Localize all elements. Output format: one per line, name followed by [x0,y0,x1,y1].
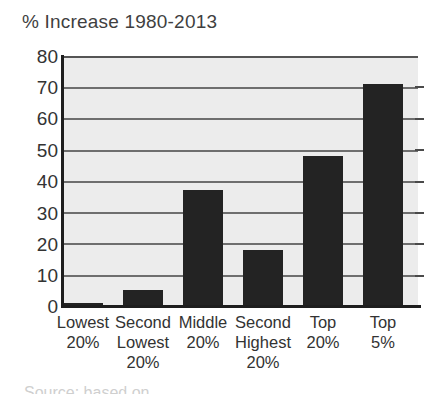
y-tick-label-10: 10 [6,266,58,285]
y-axis-line [61,55,64,308]
plot-area [63,56,418,306]
x-label-line-1: Second [115,313,171,331]
right-tick-50 [415,149,424,151]
y-tick-label-30: 30 [6,204,58,223]
right-tick-30 [415,212,424,214]
right-tick-20 [415,243,424,245]
y-tick-label-40: 40 [6,172,58,191]
y-tick-label-50: 50 [6,141,58,160]
x-label-line-3: 20% [106,352,180,372]
bar-top-5 [363,84,403,306]
bar-second-lowest-20 [123,290,163,306]
bar-second-highest-20 [243,250,283,306]
y-tick-label-70: 70 [6,78,58,97]
x-tick-label-top-5: Top 5% [346,312,420,352]
y-tick-label-80: 80 [6,47,58,66]
x-label-line-1: Top [310,313,337,331]
bar-top-20 [303,156,343,306]
y-tick-label-20: 20 [6,235,58,254]
y-tick-label-60: 60 [6,109,58,128]
right-tick-70 [415,86,424,88]
x-label-line-1: Lowest [57,313,109,331]
right-tick-10 [415,275,424,277]
bar-chart: 80 70 60 50 40 30 20 10 0 Lowest 20% Sec… [0,0,435,397]
x-axis-line [61,305,421,308]
source-caption: Source: based on [24,385,149,394]
right-tick-60 [415,118,424,120]
x-label-line-3: 20% [226,352,300,372]
bar-middle-20 [183,190,223,306]
gridline-80 [63,56,418,58]
x-label-line-1: Top [370,313,397,331]
x-label-line-1: Middle [179,313,228,331]
x-label-line-2: 5% [346,332,420,352]
right-tick-40 [415,181,424,183]
x-label-line-1: Second [235,313,291,331]
